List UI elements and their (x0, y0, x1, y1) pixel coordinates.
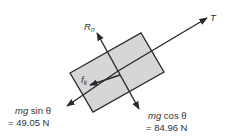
mg-sin-rest: sin θ (28, 105, 51, 116)
normal-symbol: R (84, 21, 91, 32)
tension-label: T (210, 12, 216, 23)
mg-cos-mg: mg (148, 110, 161, 121)
mg-cos-value: = 84.96 N (146, 122, 187, 133)
mg-cos-expression: mg cos θ (148, 110, 187, 121)
friction-label: fk (81, 74, 87, 88)
normal-subscript: n (91, 26, 95, 33)
mg-sin-value: = 49.05 N (8, 117, 49, 128)
normal-force-label: Rn (84, 21, 95, 35)
friction-subscript: k (84, 79, 87, 86)
mg-sin-expression: mg sin θ (15, 105, 51, 116)
mg-sin-mg: mg (15, 105, 28, 116)
mg-cos-rest: cos θ (161, 110, 186, 121)
